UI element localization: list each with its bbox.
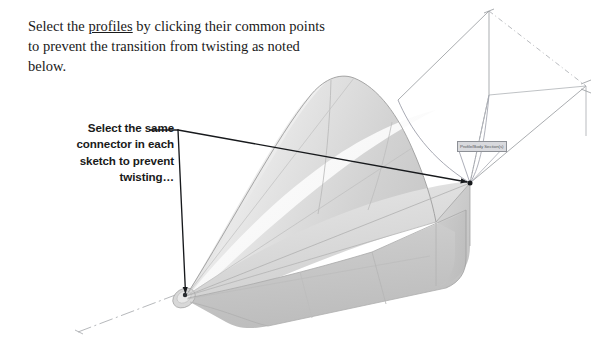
primary-annotation-note: Select the profiles by clicking their co… [28,16,328,76]
secondary-note-line2: connector in each [44,136,174,152]
secondary-note-line1: Select the same [44,120,174,136]
connector-point-small-end[interactable] [183,293,187,297]
lofted-solid-body [169,76,470,328]
leader-to-small-end [178,130,186,293]
screenshot-canvas: Select the profiles by clicking their co… [0,0,597,341]
cad-tooltip-label: Profile/Body Section(s) [457,141,507,152]
primary-note-line1-before: Select the [28,18,88,34]
secondary-annotation-note: Select the same connector in each sketch… [44,120,174,186]
tooltip-leader-line [458,148,470,183]
secondary-note-line4: twisting… [44,169,174,185]
primary-note-emphasis: profiles [88,18,132,34]
connector-point-large-end[interactable] [468,181,473,186]
secondary-note-line3: sketch to prevent [44,153,174,169]
primary-note-line1-after: by clicking their common [133,18,286,34]
